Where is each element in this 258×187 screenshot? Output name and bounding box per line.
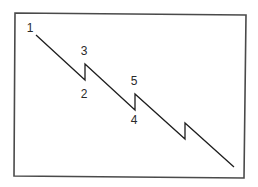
zigzag-line: [36, 35, 234, 167]
point-label-3: 3: [81, 44, 88, 58]
zigzag-diagram: 1 2 3 4 5: [0, 0, 258, 187]
point-label-1: 1: [27, 21, 34, 35]
point-label-2: 2: [81, 87, 88, 101]
point-label-4: 4: [131, 113, 138, 127]
diagram-frame: [14, 13, 246, 178]
point-label-5: 5: [131, 74, 138, 88]
